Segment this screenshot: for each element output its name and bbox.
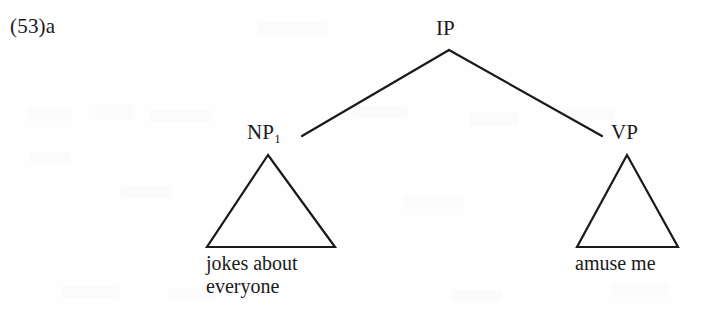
terminal-string-vp: amuse me	[575, 252, 656, 275]
node-label-np1: NP1	[247, 122, 280, 143]
terminal-line: jokes about	[206, 252, 298, 275]
terminal-line: amuse me	[575, 252, 656, 275]
terminal-string-np1: jokes about everyone	[206, 252, 298, 298]
triangle-vp	[577, 155, 678, 247]
branch-ip-to-np1	[302, 50, 449, 136]
node-label-vp: VP	[611, 122, 638, 143]
node-np-subscript: 1	[274, 131, 281, 146]
node-vp-text: VP	[611, 120, 638, 144]
node-ip-text: IP	[436, 16, 455, 40]
terminal-line: everyone	[206, 275, 298, 298]
node-label-ip: IP	[436, 18, 455, 39]
branch-ip-to-vp	[449, 50, 602, 136]
node-np-text: NP	[247, 120, 274, 144]
figure-canvas: (53)a IP NP1 VP jokes about everyone amu…	[0, 0, 701, 310]
triangle-np1	[207, 155, 335, 247]
